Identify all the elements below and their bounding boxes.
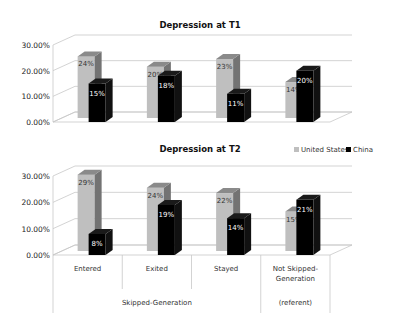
gridline-side [53, 166, 75, 176]
data-label: 21% [297, 206, 313, 214]
legend-swatch-united-states [294, 147, 299, 152]
category-label: Exited [146, 265, 168, 273]
category-label: Generation [276, 275, 315, 283]
data-label: 24% [78, 60, 94, 68]
category-label: Entered [74, 265, 101, 273]
depression-charts: Depression at T10.00%10.00%20.00%30.00%2… [0, 0, 400, 331]
gridline-side [53, 35, 75, 45]
y-tick-label: 20.00% [21, 198, 50, 207]
y-tick-label: 30.00% [21, 41, 50, 50]
y-tick-label: 0.00% [26, 118, 50, 127]
data-label: 8% [92, 240, 103, 248]
bar-side [244, 89, 251, 122]
gridline-side [53, 219, 75, 229]
bar-side [244, 213, 251, 255]
y-tick-label: 10.00% [21, 225, 50, 234]
data-label: 20% [297, 77, 313, 85]
y-tick-label: 0.00% [26, 251, 50, 260]
data-label: 15% [89, 90, 105, 98]
category-label: Stayed [214, 265, 238, 273]
data-label: 14% [228, 224, 244, 232]
bar-side [175, 200, 182, 255]
bar-front-china [227, 94, 244, 122]
y-tick-label: 30.00% [21, 172, 50, 181]
gridline-side [53, 192, 75, 202]
bar-side [313, 66, 320, 122]
gridline-side [53, 61, 75, 71]
data-label: 18% [159, 82, 175, 90]
data-label: 24% [148, 192, 164, 200]
bar-side [106, 79, 113, 123]
data-label: 19% [159, 211, 175, 219]
group-label: (referent) [279, 299, 313, 307]
data-label: 23% [217, 63, 233, 71]
chart-title: Depression at T2 [159, 144, 240, 154]
group-label: Skipped-Generation [122, 299, 192, 307]
gridline-side [53, 86, 75, 96]
data-label: 22% [217, 197, 233, 205]
category-label: Not Skipped- [273, 265, 319, 273]
chart-title: Depression at T1 [159, 20, 240, 30]
bar-side [175, 71, 182, 122]
y-tick-label: 10.00% [21, 92, 50, 101]
legend-label: United States [301, 146, 349, 154]
legend-swatch-china [346, 147, 351, 152]
bar-side [313, 195, 320, 255]
y-tick-label: 20.00% [21, 67, 50, 76]
data-label: 29% [78, 179, 94, 187]
data-label: 11% [228, 100, 244, 108]
legend-label: China [353, 146, 373, 154]
